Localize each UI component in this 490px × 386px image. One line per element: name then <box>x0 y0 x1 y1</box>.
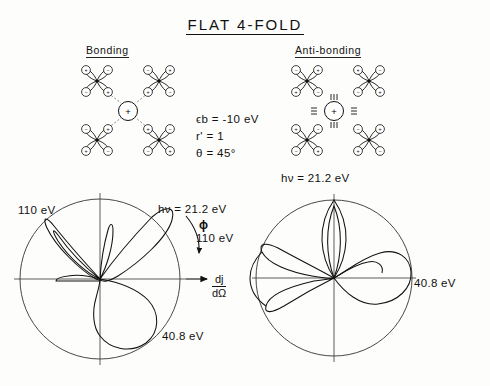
bonding-orbital-diagram: + − − + − + + − − + + − <box>82 66 175 156</box>
lobe-sign: + <box>316 67 319 73</box>
central-atom-antibonding: + <box>325 102 344 121</box>
orbital-bonding-tl: + − − + <box>82 66 113 97</box>
lobe-sign: − <box>294 148 297 154</box>
antibonding-section-label-text: Anti-bonding <box>295 44 361 58</box>
lobe-sign: − <box>146 148 149 154</box>
parameter-binding-energy: ϵb = -10 eV <box>196 113 259 125</box>
left-plot-label-110ev: 110 eV <box>18 204 55 216</box>
antibonding-orbital-diagram: − + + − + − − + + − − + <box>292 66 385 156</box>
left-plot-label-110ev-secondary: 110 eV <box>196 232 233 244</box>
orbital-bonding-bl: − + + − <box>82 125 113 156</box>
parameter-radius-ratio: r' = 1 <box>196 130 224 142</box>
lobe-sign: − <box>356 126 359 132</box>
lobe-sign: − <box>316 89 319 95</box>
parameter-theta: θ = 45° <box>196 147 236 159</box>
central-atom-sign: + <box>125 106 131 117</box>
figure-canvas: + − − + − + + − − + + − <box>0 0 490 386</box>
right-polar-plot <box>250 194 416 362</box>
page-title-text: FLAT 4-FOLD <box>186 16 305 35</box>
bonding-section-label-text: Bonding <box>86 44 129 58</box>
lobe-sign: + <box>356 148 359 154</box>
orbital-antibonding-tr: + − − + <box>354 66 385 97</box>
lobe-sign: + <box>316 148 319 154</box>
lobe-sign: − <box>316 126 319 132</box>
curve-110-eV <box>45 219 100 280</box>
lobe-sign: + <box>146 126 149 132</box>
orbital-bonding-tr: − + + − <box>144 66 175 97</box>
central-atom-bonding: + <box>119 102 138 121</box>
bonding-section-label: Bonding <box>86 44 129 56</box>
orbital-antibonding-bl: + − − + <box>292 125 323 156</box>
lobe-sign: + <box>294 89 297 95</box>
central-atom-sign: + <box>331 106 337 117</box>
left-plot-label-212ev: hν = 21.2 eV <box>158 203 227 215</box>
lobe-sign: + <box>106 126 109 132</box>
lobe-sign: − <box>378 67 381 73</box>
intensity-axis-label: dj dΩ <box>212 274 226 299</box>
page-title: FLAT 4-FOLD <box>0 16 490 33</box>
curve-110-eV-lower <box>266 278 334 312</box>
lobe-sign: − <box>146 67 149 73</box>
lobe-sign: + <box>146 89 149 95</box>
orbital-bonding-br: + − − + <box>144 125 175 156</box>
lobe-sign: + <box>168 67 171 73</box>
orbital-antibonding-br: − + + − <box>354 125 385 156</box>
orbital-antibonding-tl: − + + − <box>292 66 323 97</box>
right-plot-label-212ev: hν = 21.2 eV <box>281 172 350 184</box>
antibonding-section-label: Anti-bonding <box>295 44 361 56</box>
intensity-axis-denominator: dΩ <box>212 287 226 299</box>
lobe-sign: − <box>168 89 171 95</box>
lobe-sign: + <box>168 148 171 154</box>
lobe-sign: − <box>106 67 109 73</box>
lobe-sign: + <box>294 126 297 132</box>
lobe-sign: + <box>378 126 381 132</box>
lobe-sign: + <box>84 67 87 73</box>
curve-21-2-eV <box>100 209 173 281</box>
lobe-sign: − <box>356 89 359 95</box>
lobe-sign: − <box>106 148 109 154</box>
lobe-sign: + <box>106 89 109 95</box>
left-plot-label-408ev: 40.8 eV <box>162 330 204 342</box>
lobe-sign: − <box>294 67 297 73</box>
lobe-sign: − <box>168 126 171 132</box>
phi-angle-label: ϕ <box>199 218 208 232</box>
lobe-sign: − <box>84 89 87 95</box>
lobe-sign: + <box>84 148 87 154</box>
lobe-sign: + <box>378 89 381 95</box>
right-plot-label-408ev: 40.8 eV <box>414 277 456 289</box>
lobe-sign: + <box>356 67 359 73</box>
curve-40-8-eV <box>94 279 157 349</box>
lobe-sign: − <box>84 126 87 132</box>
intensity-axis-numerator: dj <box>212 274 226 287</box>
lobe-sign: − <box>378 148 381 154</box>
